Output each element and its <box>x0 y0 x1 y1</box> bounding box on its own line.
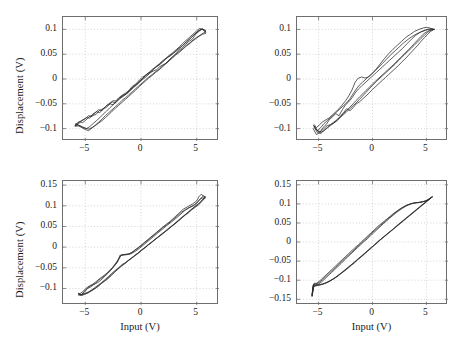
panel-bottom-right-plot-area <box>296 180 447 304</box>
panel-bottom-left-xtick-label: 0 <box>138 307 143 317</box>
panel-bottom-right-xtick-label: 0 <box>369 307 374 317</box>
panel-top-left-canvas <box>63 17 219 141</box>
panel-top-right-xtick-label: 0 <box>369 143 374 153</box>
panel-top-right-loop-1-ascending <box>314 27 434 127</box>
panel-top-right-plot-area <box>296 16 447 140</box>
panel-bottom-right-ytick-label: 0 <box>250 236 291 246</box>
panel-bottom-right-ytick-label: 0.1 <box>250 198 291 208</box>
panel-bottom-left-xtick-label: 5 <box>193 307 198 317</box>
panel-bottom-left-gridlines <box>63 181 219 305</box>
panel-bottom-left-plot-area <box>62 180 218 304</box>
panel-top-right-gridlines <box>297 17 448 141</box>
panel-top-left-plot-area <box>62 16 218 140</box>
panel-top-right-xtick-label: 5 <box>423 143 428 153</box>
panel-top-left-ylabel: Displacement (V) <box>14 22 25 134</box>
panel-top-right-canvas <box>297 17 448 141</box>
panel-bottom-right-xlabel: Input (V) <box>296 321 447 332</box>
panel-bottom-right-xtick-label: 5 <box>423 307 428 317</box>
panel-bottom-right-ytick-label: −0.1 <box>250 274 291 284</box>
panel-top-right-ytick-label: −0.05 <box>250 98 291 108</box>
panel-bottom-right-ytick-label: 0.05 <box>250 217 291 227</box>
panel-bottom-left-loop-3-ascending <box>79 196 205 294</box>
panel-top-left-loop-3-ascending <box>76 28 206 126</box>
panel-bottom-right-xtick-label: −5 <box>313 307 323 317</box>
panel-bottom-left-canvas <box>63 181 219 305</box>
panel-top-right-loop-1-descending <box>314 29 434 133</box>
panel-top-right-ytick-label: 0.1 <box>250 23 291 33</box>
panel-top-left-xtick-label: −5 <box>79 143 89 153</box>
panel-bottom-left-xlabel: Input (V) <box>62 321 218 332</box>
panel-bottom-right-ytick-label: −0.05 <box>250 255 291 265</box>
panel-top-right-ytick-label: 0 <box>250 73 291 83</box>
panel-top-right-loop-2-ascending <box>313 29 434 135</box>
panel-top-right-xtick-label: −5 <box>313 143 323 153</box>
panel-bottom-right-ytick-label: −0.15 <box>250 293 291 303</box>
panel-bottom-right-ytick-label: 0.15 <box>250 179 291 189</box>
panel-bottom-right-canvas <box>297 181 448 305</box>
panel-bottom-left-xtick-label: −5 <box>79 307 89 317</box>
panel-top-left-xtick-label: 5 <box>193 143 198 153</box>
panel-top-left-xtick-label: 0 <box>138 143 143 153</box>
panel-top-right-ytick-label: −0.1 <box>250 123 291 133</box>
panel-bottom-right-gridlines <box>297 181 448 305</box>
panel-top-right-ytick-label: 0.05 <box>250 48 291 58</box>
panel-bottom-right-loop-3-descending <box>312 197 432 295</box>
panel-bottom-left-ylabel: Displacement (V) <box>14 186 25 298</box>
figure-container: 0.10.050−0.05−0.1−505Displacement (V)0.1… <box>0 0 464 338</box>
panel-top-left-loop-2-descending <box>75 29 205 131</box>
